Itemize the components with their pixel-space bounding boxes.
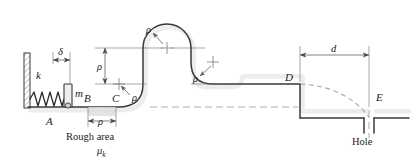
label-point-b: B — [84, 92, 91, 104]
label-mass: m — [75, 87, 83, 99]
label-point-d: D — [284, 71, 293, 83]
label-point-a: A — [45, 115, 53, 127]
label-point-e: E — [375, 91, 383, 103]
label-layer: k δ m A B C ρ ρ ρ ρ ρ D d E Rough area μ… — [0, 0, 413, 160]
label-hole: Hole — [352, 136, 373, 147]
label-rho-right-curve: ρ — [192, 73, 198, 84]
label-rho-bc: ρ — [97, 116, 103, 127]
label-friction-mu: μk — [96, 145, 106, 159]
label-point-c: C — [112, 92, 120, 104]
label-rho-arch: ρ — [145, 24, 151, 35]
label-rho-rise: ρ — [96, 61, 102, 72]
label-compression-delta: δ — [58, 46, 64, 57]
label-rho-left-curve: ρ — [131, 92, 137, 103]
label-rough-area: Rough area — [66, 131, 114, 142]
label-spring-constant: k — [36, 69, 42, 81]
label-distance-d: d — [331, 43, 337, 54]
physics-diagram-figure: k δ m A B C ρ ρ ρ ρ ρ D d E Rough area μ… — [0, 0, 413, 160]
